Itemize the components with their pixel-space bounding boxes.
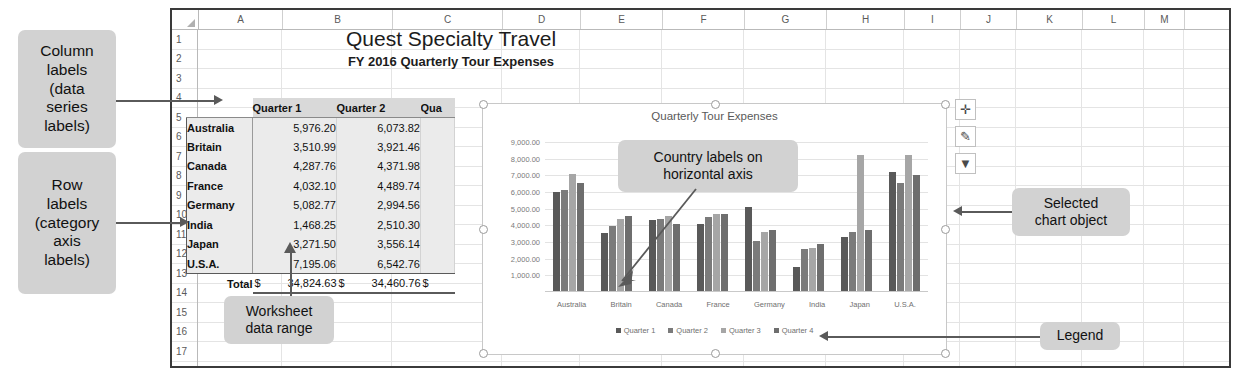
grid-cell[interactable]	[960, 186, 1016, 205]
grid-cell[interactable]	[1016, 30, 1082, 49]
grid-cell[interactable]	[1082, 362, 1144, 369]
table-cell-q3-clipped[interactable]	[421, 196, 455, 216]
column-header-m[interactable]: M	[1145, 10, 1185, 29]
table-cell-q3-clipped[interactable]	[421, 176, 455, 196]
grid-cell[interactable]	[1082, 303, 1144, 322]
grid-cell[interactable]	[1016, 108, 1082, 127]
grid-cell[interactable]	[1082, 167, 1144, 186]
grid-cell[interactable]	[744, 362, 826, 369]
row-header-18[interactable]: 18	[172, 362, 197, 369]
grid-cell[interactable]	[1144, 362, 1184, 369]
grid-cell[interactable]	[1144, 147, 1184, 166]
grid-cell[interactable]	[198, 69, 282, 88]
table-cell-country[interactable]: France	[187, 176, 253, 196]
grid-cell[interactable]	[1144, 264, 1184, 283]
table-cell-q1[interactable]: 4,032.10	[253, 176, 337, 196]
column-header-g[interactable]: G	[745, 10, 827, 29]
table-cell-q2[interactable]: 6,542.76	[337, 254, 421, 274]
column-header-i[interactable]: I	[905, 10, 961, 29]
table-cell-q1[interactable]: 3,510.99	[253, 137, 337, 157]
grid-cell[interactable]	[392, 69, 502, 88]
grid-cell[interactable]	[1016, 89, 1082, 108]
table-row[interactable]: Canada4,287.764,371.98	[187, 157, 455, 177]
table-cell-q2[interactable]: 3,556.14	[337, 235, 421, 255]
table-cell-q2[interactable]: 3,921.46	[337, 137, 421, 157]
total-value-q1[interactable]: $34,824.63	[253, 274, 337, 294]
chart-side-buttons[interactable]: ✛✎▼	[955, 99, 976, 174]
total-value-q2[interactable]: $34,460.76	[337, 274, 421, 294]
resize-handle-mr[interactable]	[941, 225, 950, 234]
grid-cell[interactable]	[960, 245, 1016, 264]
grid-cell[interactable]	[1016, 128, 1082, 147]
table-cell-q3-clipped[interactable]	[421, 235, 455, 255]
table-cell-q2[interactable]: 4,489.74	[337, 176, 421, 196]
table-cell-country[interactable]: Germany	[187, 196, 253, 216]
grid-cell[interactable]	[960, 30, 1016, 49]
grid-cell[interactable]	[1144, 108, 1184, 127]
legend-item[interactable]: Quarter 4	[774, 326, 814, 335]
grid-cell[interactable]	[392, 362, 502, 369]
table-cell-q2[interactable]: 6,073.82	[337, 118, 421, 138]
grid-cell[interactable]	[1082, 50, 1144, 69]
grid-cell[interactable]	[744, 50, 826, 69]
grid-cell[interactable]	[1144, 225, 1184, 244]
column-header-f[interactable]: F	[663, 10, 745, 29]
grid-cell[interactable]	[1082, 89, 1144, 108]
grid-cell[interactable]	[1082, 284, 1144, 303]
grid-cell[interactable]	[826, 50, 904, 69]
table-cell-q1[interactable]: 1,468.25	[253, 215, 337, 235]
grid-cell[interactable]	[904, 50, 960, 69]
grid-row[interactable]	[198, 69, 1229, 89]
resize-handle-tl[interactable]	[479, 100, 488, 109]
table-cell-q3-clipped[interactable]	[421, 118, 455, 138]
table-row[interactable]: Germany5,082.772,994.56	[187, 196, 455, 216]
row-header-15[interactable]: 15	[172, 303, 197, 323]
table-cell-country[interactable]: U.S.A.	[187, 254, 253, 274]
grid-cell[interactable]	[826, 30, 904, 49]
grid-cell[interactable]	[1016, 303, 1082, 322]
grid-cell[interactable]	[580, 69, 662, 88]
table-row[interactable]: Australia5,976.206,073.82	[187, 118, 455, 138]
total-value-q3-clipped[interactable]: $	[421, 274, 455, 294]
chart-filters-button[interactable]: ▼	[955, 153, 976, 174]
grid-cell[interactable]	[1144, 30, 1184, 49]
grid-cell[interactable]	[1144, 303, 1184, 322]
grid-cell[interactable]	[1016, 69, 1082, 88]
table-cell-q1[interactable]: 7,195.06	[253, 254, 337, 274]
table-cell-q3-clipped[interactable]	[421, 157, 455, 177]
grid-cell[interactable]	[580, 362, 662, 369]
grid-cell[interactable]	[1016, 362, 1082, 369]
grid-cell[interactable]	[960, 225, 1016, 244]
row-header-2[interactable]: 2	[172, 50, 197, 70]
table-cell-q1[interactable]: 5,976.20	[253, 118, 337, 138]
resize-handle-tr[interactable]	[941, 100, 950, 109]
grid-cell[interactable]	[744, 69, 826, 88]
grid-cell[interactable]	[826, 362, 904, 369]
grid-cell[interactable]	[960, 284, 1016, 303]
chart-elements-button[interactable]: ✛	[955, 99, 976, 120]
resize-handle-br[interactable]	[941, 349, 950, 358]
grid-cell[interactable]	[1082, 69, 1144, 88]
row-header-16[interactable]: 16	[172, 323, 197, 343]
table-total-row[interactable]: Total$34,824.63$34,460.76$	[187, 274, 455, 294]
grid-cell[interactable]	[198, 342, 282, 361]
grid-cell[interactable]	[960, 362, 1016, 369]
grid-cell[interactable]	[904, 362, 960, 369]
grid-cell[interactable]	[1144, 89, 1184, 108]
grid-cell[interactable]	[1016, 284, 1082, 303]
grid-cell[interactable]	[1016, 147, 1082, 166]
grid-cell[interactable]	[502, 69, 580, 88]
table-row[interactable]: India1,468.252,510.30	[187, 215, 455, 235]
table-cell-q3-clipped[interactable]	[421, 215, 455, 235]
grid-cell[interactable]	[1016, 264, 1082, 283]
grid-cell[interactable]	[662, 30, 744, 49]
grid-cell[interactable]	[960, 50, 1016, 69]
grid-cell[interactable]	[960, 303, 1016, 322]
column-header-h[interactable]: H	[827, 10, 905, 29]
grid-cell[interactable]	[1082, 108, 1144, 127]
table-row[interactable]: France4,032.104,489.74	[187, 176, 455, 196]
row-header-17[interactable]: 17	[172, 342, 197, 362]
resize-handle-ml[interactable]	[479, 225, 488, 234]
grid-cell[interactable]	[1082, 264, 1144, 283]
table-cell-country[interactable]: Japan	[187, 235, 253, 255]
